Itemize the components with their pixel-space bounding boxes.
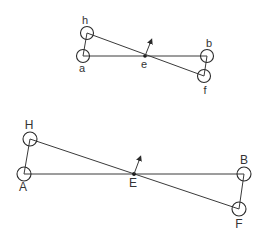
link-a-h <box>83 33 87 56</box>
small-linkage: h a e b f <box>77 14 214 96</box>
linkage-diagram: h a e b f H A E B F <box>0 0 268 234</box>
large-linkage: H A E B F <box>17 118 251 231</box>
link-b-f <box>204 56 207 76</box>
label-a: a <box>79 62 86 74</box>
label-F: F <box>235 217 242 231</box>
label-b: b <box>206 37 212 49</box>
velocity-arrow-icon <box>134 158 140 174</box>
label-e: e <box>141 58 147 70</box>
velocity-arrow-icon <box>145 41 151 56</box>
label-h: h <box>82 14 88 26</box>
label-H: H <box>25 118 34 132</box>
label-f: f <box>203 84 207 96</box>
label-B: B <box>240 153 248 167</box>
label-A: A <box>19 180 27 194</box>
label-E: E <box>129 176 137 190</box>
